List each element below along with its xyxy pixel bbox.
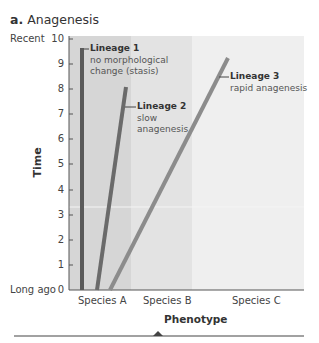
lineage-1-desc-2: change (stasis) [90, 66, 159, 76]
lineage-2-desc-1: slow [137, 113, 157, 123]
y-top-label: Recent [10, 33, 45, 44]
y-tick-9: 9 [50, 58, 64, 69]
y-tick-0: 0 [50, 284, 64, 295]
lineage-3-annotation: Lineage 3 rapid anagenesis [230, 71, 307, 94]
y-tick-5: 5 [50, 158, 64, 169]
y-tick-8: 8 [50, 83, 64, 94]
y-axis-title: Time [31, 148, 44, 178]
y-tick-1: 1 [50, 259, 64, 270]
y-tick-7: 7 [50, 108, 64, 119]
lineage-2-title: Lineage 2 [137, 101, 186, 111]
x-category-species-a: Species A [78, 295, 127, 306]
y-tick-4: 4 [50, 184, 64, 195]
lineage-1-title: Lineage 1 [90, 43, 139, 53]
bottom-rule-marker-icon [153, 331, 163, 336]
lineage-2-annotation: Lineage 2 slow anagenesis [137, 101, 188, 136]
x-category-species-c: Species C [232, 295, 281, 306]
y-tick-6: 6 [50, 133, 64, 144]
lineage-1-desc-1: no morphological [90, 55, 168, 65]
y-tick-3: 3 [50, 209, 64, 220]
lineage-3-desc-1: rapid anagenesis [230, 83, 307, 93]
y-tick-10: 10 [50, 33, 64, 44]
x-category-species-b: Species B [143, 295, 192, 306]
lineage-1-annotation: Lineage 1 no morphological change (stasi… [90, 43, 168, 78]
lineage-2-desc-2: anagenesis [137, 124, 188, 134]
lineage-3-title: Lineage 3 [230, 71, 279, 81]
x-axis-title: Phenotype [164, 313, 227, 325]
y-tick-2: 2 [50, 234, 64, 245]
